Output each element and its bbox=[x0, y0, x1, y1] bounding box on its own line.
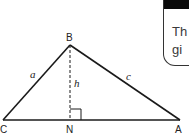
card-body: Th gi bbox=[164, 9, 189, 59]
side-label-c: c bbox=[126, 70, 131, 82]
card-text-line-2: gi bbox=[172, 41, 189, 59]
vertex-label-a: A bbox=[175, 124, 182, 135]
side-label-a: a bbox=[30, 68, 36, 80]
right-angle-marker bbox=[70, 109, 81, 120]
triangle-diagram bbox=[0, 0, 189, 135]
point-label-n: N bbox=[66, 124, 73, 135]
info-card: Th gi bbox=[163, 0, 189, 66]
vertex-label-c: C bbox=[0, 124, 7, 135]
card-header bbox=[164, 0, 189, 9]
side-a bbox=[3, 45, 70, 120]
altitude-label-h: h bbox=[74, 77, 80, 89]
card-text-line-1: Th bbox=[172, 23, 189, 41]
vertex-label-b: B bbox=[66, 32, 73, 43]
